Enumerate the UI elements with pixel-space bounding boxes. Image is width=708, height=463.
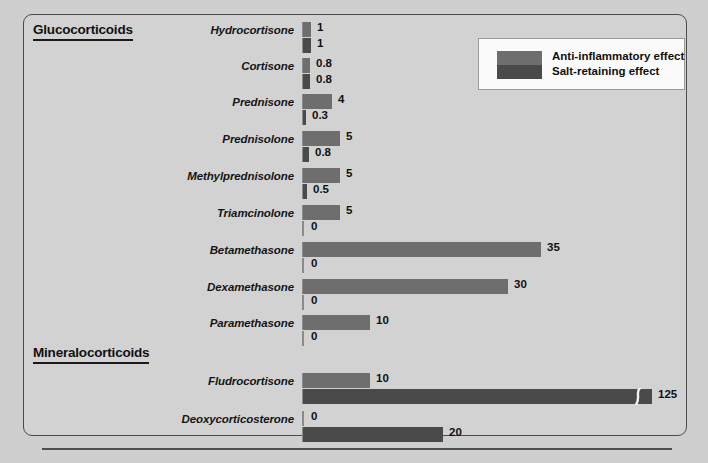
- bar-value-label-paramethasone-salt: 0: [311, 330, 317, 342]
- bar-betamethasone-anti[interactable]: [303, 242, 541, 257]
- bar-baseline-stub: [302, 295, 304, 310]
- category-label-triamcinolone: Triamcinolone: [0, 207, 300, 219]
- bar-baseline-stub: [302, 411, 304, 426]
- bar-baseline-stub: [302, 331, 304, 346]
- bar-value-label-prednisone-anti: 4: [338, 93, 344, 105]
- bar-methylprednisolone-anti[interactable]: [303, 168, 340, 183]
- category-label-dexamethasone: Dexamethasone: [0, 281, 300, 293]
- bar-baseline-stub: [302, 258, 304, 273]
- category-label-methylprednisolone: Methylprednisolone: [0, 170, 300, 182]
- category-label-betamethasone: Betamethasone: [0, 244, 300, 256]
- bar-value-label-fludrocortisone-anti: 10: [376, 372, 389, 384]
- bar-triamcinolone-anti[interactable]: [303, 205, 340, 220]
- legend-swatch-salt-retaining: [497, 65, 542, 79]
- bar-value-label-betamethasone-anti: 35: [547, 241, 560, 253]
- bar-value-label-deoxycorticosterone-anti: 0: [311, 410, 317, 422]
- bar-fludrocortisone-anti[interactable]: [303, 373, 370, 388]
- bar-cortisone-salt[interactable]: [303, 74, 310, 89]
- bar-value-label-hydrocortisone-anti: 1: [317, 21, 323, 33]
- category-label-paramethasone: Paramethasone: [0, 317, 300, 329]
- bar-value-label-methylprednisolone-salt: 0.5: [313, 183, 329, 195]
- category-label-prednisolone: Prednisolone: [0, 133, 300, 145]
- bar-paramethasone-anti[interactable]: [303, 315, 370, 330]
- bar-value-label-methylprednisolone-anti: 5: [346, 167, 352, 179]
- legend-label-group: Anti-inflammatory effect Salt-retaining …: [552, 49, 684, 79]
- bar-value-label-hydrocortisone-salt: 1: [317, 37, 323, 49]
- bar-baseline-stub: [302, 221, 304, 236]
- bar-value-label-cortisone-salt: 0.8: [316, 73, 332, 85]
- bar-value-label-dexamethasone-anti: 30: [514, 278, 527, 290]
- bar-hydrocortisone-salt[interactable]: [303, 38, 311, 53]
- legend-swatch-group: [497, 51, 542, 79]
- bar-value-label-prednisone-salt: 0.3: [312, 109, 328, 121]
- bar-prednisone-anti[interactable]: [303, 94, 332, 109]
- legend-label-anti-inflammatory: Anti-inflammatory effect: [552, 49, 684, 64]
- category-label-hydrocortisone: Hydrocortisone: [0, 24, 300, 36]
- bar-value-label-dexamethasone-salt: 0: [311, 294, 317, 306]
- bar-prednisolone-anti[interactable]: [303, 131, 340, 146]
- legend-label-salt-retaining: Salt-retaining effect: [552, 64, 684, 79]
- chart-legend: Anti-inflammatory effect Salt-retaining …: [478, 38, 685, 90]
- bar-value-label-fludrocortisone-salt: 125: [658, 388, 677, 400]
- bar-value-label-betamethasone-salt: 0: [311, 257, 317, 269]
- bar-value-label-triamcinolone-anti: 5: [346, 204, 352, 216]
- bar-hydrocortisone-anti[interactable]: [303, 22, 311, 37]
- bar-value-label-triamcinolone-salt: 0: [311, 220, 317, 232]
- bar-dexamethasone-anti[interactable]: [303, 279, 508, 294]
- category-label-prednisone: Prednisone: [0, 96, 300, 108]
- bar-value-label-paramethasone-anti: 10: [376, 314, 389, 326]
- legend-swatch-anti-inflammatory: [497, 51, 542, 65]
- bar-fludrocortisone-salt[interactable]: [303, 389, 652, 404]
- bar-methylprednisolone-salt[interactable]: [303, 184, 307, 199]
- category-label-fludrocortisone: Fludrocortisone: [0, 375, 300, 387]
- bar-value-label-cortisone-anti: 0.8: [316, 57, 332, 69]
- bar-value-label-prednisolone-salt: 0.8: [315, 146, 331, 158]
- bar-deoxycorticosterone-salt[interactable]: [303, 427, 443, 442]
- bar-prednisone-salt[interactable]: [303, 110, 306, 125]
- bar-prednisolone-salt[interactable]: [303, 147, 309, 162]
- category-label-deoxycorticosterone: Deoxycorticosterone: [0, 413, 300, 425]
- bar-value-label-deoxycorticosterone-salt: 20: [449, 426, 462, 438]
- bar-value-label-prednisolone-anti: 5: [346, 130, 352, 142]
- chart-page: Glucocorticoids Mineralocorticoids Hydro…: [0, 0, 708, 463]
- category-label-cortisone: Cortisone: [0, 60, 300, 72]
- footer-divider-rule: [42, 448, 672, 450]
- bar-cortisone-anti[interactable]: [303, 58, 310, 73]
